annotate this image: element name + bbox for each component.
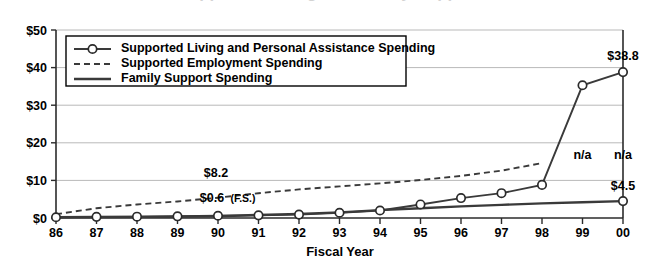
data-point-marker	[376, 206, 384, 214]
x-axis-tick-label: 91	[252, 226, 266, 240]
x-axis-tick-label: 97	[495, 226, 509, 240]
legend-swatch-marker	[88, 45, 96, 53]
data-point-marker	[92, 213, 100, 221]
annotation-se-99: n/a	[573, 148, 592, 162]
legend-item-0[interactable]: Supported Living and Personal Assistance…	[74, 41, 435, 55]
x-axis-tick-label: 86	[49, 226, 63, 240]
data-point-marker	[416, 200, 424, 208]
chart-page: Supported Living and Family Support $0$1…	[0, 0, 658, 263]
y-axis-tick-label: $10	[26, 174, 47, 188]
legend-item-label: Supported Living and Personal Assistance…	[121, 41, 435, 55]
data-point-marker	[133, 212, 141, 220]
annotation-fs-00: $4.5	[611, 179, 635, 193]
y-axis-tick-label: $40	[26, 61, 47, 75]
x-axis-title: Fiscal Year	[306, 244, 374, 259]
data-series-group	[56, 72, 623, 217]
x-axis-tick-label: 88	[130, 226, 144, 240]
x-axis-tick-label: 00	[616, 226, 630, 240]
data-point-marker	[335, 209, 343, 217]
data-point-marker	[173, 212, 181, 220]
x-axis-tick-label: 95	[414, 226, 428, 240]
chart-legend[interactable]: Supported Living and Personal Assistance…	[66, 36, 435, 86]
data-point-marker	[457, 194, 465, 202]
legend-item-label: Family Support Spending	[121, 71, 272, 85]
annotation-se-00: n/a	[614, 148, 633, 162]
chart-title-clipped: Supported Living and Family Support	[177, 0, 481, 2]
data-point-marker	[52, 213, 60, 221]
y-axis-tick-label: $20	[26, 136, 47, 150]
series-line-0	[56, 72, 623, 217]
data-point-marker	[214, 212, 222, 220]
x-axis-tick-labels: 868788899091929394959697989900	[49, 226, 630, 240]
x-axis-tick-label: 92	[292, 226, 306, 240]
data-point-marker	[578, 81, 586, 89]
x-axis-tick-label: 90	[211, 226, 225, 240]
chart-title: Supported Living and Family Support	[177, 0, 481, 2]
y-axis-tick-label: $0	[33, 212, 47, 226]
data-point-marker	[254, 211, 262, 219]
x-axis-tick-label: 94	[373, 226, 387, 240]
x-axis-tick-label: 89	[171, 226, 185, 240]
x-axis-tick-label: 87	[90, 226, 104, 240]
data-point-marker	[295, 210, 303, 218]
y-axis-tick-label: $50	[26, 24, 47, 38]
x-axis-tick-label: 93	[333, 226, 347, 240]
y-axis-tick-labels: $0$10$20$30$40$50	[26, 24, 47, 226]
data-point-marker	[497, 189, 505, 197]
data-markers-group	[52, 68, 627, 222]
annotation-fs-90: $0.6	[200, 191, 224, 205]
x-axis-tick-label: 99	[576, 226, 590, 240]
data-point-marker	[538, 181, 546, 189]
data-point-marker	[619, 68, 627, 76]
line-chart: Supported Living and Family Support $0$1…	[0, 0, 658, 263]
data-point-marker	[619, 197, 627, 205]
annotation-sl-00: $38.8	[607, 49, 638, 63]
annotation-sub-fs-90: (F.S.)	[230, 192, 255, 204]
legend-item-label: Supported Employment Spending	[121, 56, 322, 70]
y-axis-tick-label: $30	[26, 99, 47, 113]
x-axis-tick-label: 96	[454, 226, 468, 240]
annotation-sl-90: $8.2	[204, 166, 228, 180]
x-axis-tick-label: 98	[535, 226, 549, 240]
